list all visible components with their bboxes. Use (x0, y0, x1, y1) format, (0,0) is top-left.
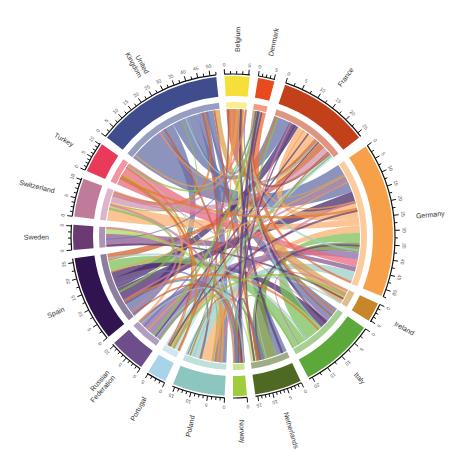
tick-mark (392, 268, 395, 269)
tick-label: 10 (185, 398, 192, 405)
tick-mark (358, 130, 362, 133)
tick-label: 40 (399, 259, 406, 266)
group-label-portugal: Portugal (129, 395, 149, 422)
tick-label: 50 (205, 63, 212, 70)
tick-label: 15 (121, 98, 129, 106)
tick-mark (67, 216, 72, 217)
group-label-belgium: Belgium (234, 27, 243, 53)
tick-mark (95, 146, 98, 148)
tick-mark (186, 391, 187, 394)
axis-line-sweden (71, 225, 72, 250)
group-label-germany: Germany (416, 210, 446, 221)
group-arc-switzerland[interactable] (74, 179, 102, 219)
tick-mark (107, 130, 109, 132)
tick-mark (110, 346, 114, 349)
tick-mark (162, 383, 164, 388)
tick-label: 10 (87, 135, 95, 143)
tick-mark (87, 154, 91, 156)
group-label-norway: Norway (237, 420, 246, 445)
tick-mark (197, 73, 198, 78)
tick-mark (93, 149, 96, 151)
group-label-switzerland: Switzerland (19, 179, 56, 195)
tick-mark (135, 366, 137, 368)
chord-diagram: 0505051015202505101520253035404550050510… (0, 0, 466, 466)
tick-mark (72, 202, 75, 203)
tick-mark (274, 74, 275, 79)
tick-label: 25 (60, 261, 67, 268)
tick-mark (262, 395, 263, 398)
tick-mark (131, 363, 133, 365)
group-arc-belgium[interactable] (225, 76, 250, 97)
tick-mark (68, 263, 73, 264)
tick-label: 5 (288, 394, 293, 401)
group-arc-denmark[interactable] (255, 78, 275, 101)
tick-mark (90, 317, 93, 319)
tick-mark (125, 112, 127, 114)
tick-mark (95, 141, 99, 144)
axis-line-norway (233, 397, 247, 398)
tick-label: 10 (319, 86, 327, 94)
inner-arc-belgium (226, 102, 247, 109)
tick-mark (137, 369, 140, 373)
group-arc-poland[interactable] (173, 366, 226, 396)
tick-mark (266, 75, 267, 78)
tick-mark (173, 387, 175, 392)
tick-mark (134, 104, 136, 106)
group-arc-norway[interactable] (233, 375, 247, 396)
tick-mark (354, 343, 358, 346)
group-label-russian-federation: RussianFederation (83, 369, 116, 404)
tick-mark (138, 98, 141, 102)
tick-mark (190, 392, 191, 397)
tick-mark (393, 260, 398, 261)
tick-label: 5 (86, 327, 93, 333)
tick-mark (391, 199, 396, 200)
tick-mark (87, 159, 90, 160)
tick-mark (366, 329, 370, 332)
tick-label: 5 (59, 224, 65, 227)
tick-mark (273, 393, 274, 398)
tick-mark (294, 386, 295, 389)
group-arc-netherlands[interactable] (252, 363, 300, 395)
tick-label: 15 (256, 402, 263, 409)
tick-mark (382, 170, 387, 172)
tick-mark (93, 324, 97, 327)
tick-mark (203, 74, 204, 77)
group-label-france: France (336, 66, 354, 88)
tick-label: 15 (167, 392, 175, 400)
tick-label: 0 (370, 332, 377, 338)
tick-mark (298, 384, 299, 387)
group-label-turkey: Turkey (53, 131, 76, 149)
tick-label: 20 (313, 382, 321, 390)
tick-mark (84, 165, 87, 166)
tick-mark (149, 92, 152, 96)
tick-label: 10 (68, 172, 76, 180)
tick-mark (373, 317, 376, 319)
tick-mark (75, 188, 78, 189)
tick-label: 0 (59, 213, 65, 217)
tick-mark (85, 162, 88, 163)
tick-label: 0 (59, 249, 65, 253)
tick-label: 10 (76, 310, 84, 318)
tick-mark (119, 114, 122, 118)
tick-mark (145, 374, 148, 378)
tick-mark (325, 100, 327, 102)
tick-mark (371, 150, 374, 152)
tick-mark (123, 358, 126, 362)
tick-mark (167, 85, 168, 88)
tick-mark (269, 394, 270, 397)
tick-mark (121, 355, 123, 357)
tick-mark (386, 290, 391, 292)
tick-mark (394, 215, 399, 216)
tick-mark (76, 178, 81, 180)
group-arc-sweden[interactable] (73, 225, 94, 250)
tick-mark (115, 349, 117, 351)
tick-label: 20 (132, 90, 140, 98)
tick-mark (161, 86, 163, 91)
inner-arc-norway (233, 364, 245, 370)
tick-mark (378, 309, 381, 310)
group-arc-turkey[interactable] (87, 144, 118, 179)
tick-mark (128, 106, 131, 110)
tick-mark (258, 396, 259, 401)
group-label-spain: Spain (46, 306, 66, 321)
tick-label: 25 (361, 123, 369, 131)
